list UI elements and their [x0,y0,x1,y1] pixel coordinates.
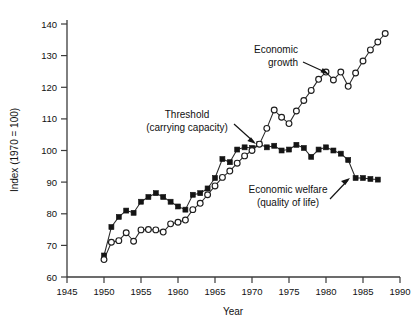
data-point-economic-welfare [168,199,173,204]
data-point-economic-welfare [190,192,195,197]
data-point-economic-welfare [176,204,181,209]
data-point-economic-growth [109,239,115,245]
data-point-economic-welfare [264,145,269,150]
data-point-economic-welfare [227,160,232,165]
data-point-economic-welfare [161,194,166,199]
x-tick-label: 1950 [93,286,114,297]
data-point-economic-growth [197,200,203,206]
data-point-economic-welfare [183,207,188,212]
x-tick-label: 1980 [315,286,336,297]
y-tick-label: 130 [41,50,57,61]
data-point-economic-growth [368,47,374,53]
data-point-economic-welfare [131,210,136,215]
data-point-economic-welfare [235,147,240,152]
y-tick-label: 80 [46,208,57,219]
data-point-economic-welfare [338,151,343,156]
data-point-economic-welfare [361,176,366,181]
y-tick-label: 60 [46,272,57,283]
y-tick-label: 100 [41,145,57,156]
data-point-economic-welfare [139,199,144,204]
data-point-economic-growth [138,227,144,233]
y-ticks: 60 70 80 90 100 110 120 130 140 [41,19,67,283]
data-point-economic-growth [331,77,337,83]
data-point-economic-welfare [213,176,218,181]
y-tick-label: 90 [46,177,57,188]
data-point-economic-growth [382,31,388,37]
data-point-economic-welfare [153,191,158,196]
data-point-economic-growth [353,70,359,76]
data-point-economic-welfare [279,148,284,153]
data-point-economic-welfare [309,154,314,159]
data-point-economic-growth [360,58,366,64]
data-point-economic-welfare [375,177,380,182]
x-ticks: 1945 1950 1955 1960 1965 1970 1975 1980 … [56,277,410,297]
data-point-economic-growth [153,227,159,233]
data-point-economic-growth [257,141,263,147]
data-point-economic-welfare [124,208,129,213]
chart-canvas: 60 70 80 90 100 110 120 130 140 1945 195… [0,0,417,328]
annotation-economic-growth-line2: growth [268,57,298,68]
data-point-economic-growth [212,183,218,189]
data-point-economic-growth [160,229,166,235]
data-point-economic-growth [123,230,129,236]
data-point-economic-growth [294,108,300,114]
annotation-threshold-arrowhead [247,137,256,144]
data-point-economic-growth [301,98,307,104]
data-point-economic-growth [183,217,189,223]
data-point-economic-growth [101,257,107,263]
data-point-economic-welfare [331,148,336,153]
x-tick-label: 1965 [204,286,225,297]
data-point-economic-welfare [324,145,329,150]
annotation-economic-welfare-arrowhead [341,178,350,185]
annotation-economic-welfare-line2: (quality of life) [257,197,319,208]
data-point-economic-growth [220,174,226,180]
y-axis-title: Index (1970 = 100) [9,108,20,192]
data-point-economic-welfare [316,147,321,152]
annotation-economic-growth: Economic growth [254,44,329,75]
annotation-threshold: Threshold (carrying capacity) [146,109,256,144]
data-point-economic-growth [131,238,137,244]
x-tick-label: 1985 [352,286,373,297]
x-tick-label: 1945 [56,286,77,297]
data-point-economic-growth [116,238,122,244]
data-point-economic-growth [249,148,255,154]
data-point-economic-welfare [146,194,151,199]
data-point-economic-growth [375,39,381,45]
data-point-economic-growth [168,221,174,227]
data-point-economic-welfare [346,157,351,162]
x-tick-label: 1975 [278,286,299,297]
x-tick-label: 1970 [241,286,262,297]
annotation-threshold-line2: (carrying capacity) [146,122,228,133]
data-point-economic-growth [345,83,351,89]
data-point-economic-welfare [353,176,358,181]
x-tick-label: 1990 [389,286,410,297]
data-point-economic-growth [338,69,344,75]
data-point-economic-welfare [242,145,247,150]
x-tick-label: 1960 [167,286,188,297]
data-point-economic-welfare [220,157,225,162]
data-point-economic-welfare [368,176,373,181]
data-point-economic-growth [227,168,233,174]
data-point-economic-growth [205,192,211,198]
data-point-economic-growth [146,227,152,233]
data-point-economic-growth [175,219,181,225]
data-point-economic-growth [264,125,270,131]
data-point-economic-welfare [287,147,292,152]
data-point-economic-welfare [198,191,203,196]
chart-figure: 60 70 80 90 100 110 120 130 140 1945 195… [0,0,417,328]
data-point-economic-growth [190,207,196,213]
data-point-economic-growth [279,114,285,120]
y-tick-label: 70 [46,240,57,251]
data-point-economic-growth [242,153,248,159]
data-point-economic-growth [271,107,277,113]
data-point-economic-growth [308,88,314,94]
data-point-economic-growth [234,160,240,166]
annotation-economic-growth-line1: Economic [254,44,298,55]
x-axis-title: Year [223,306,244,317]
data-point-economic-welfare [109,225,114,230]
y-tick-label: 120 [41,82,57,93]
data-point-economic-welfare [205,186,210,191]
annotation-economic-welfare-line1: Economic welfare [249,184,328,195]
data-point-economic-welfare [301,145,306,150]
y-tick-label: 110 [42,113,57,124]
